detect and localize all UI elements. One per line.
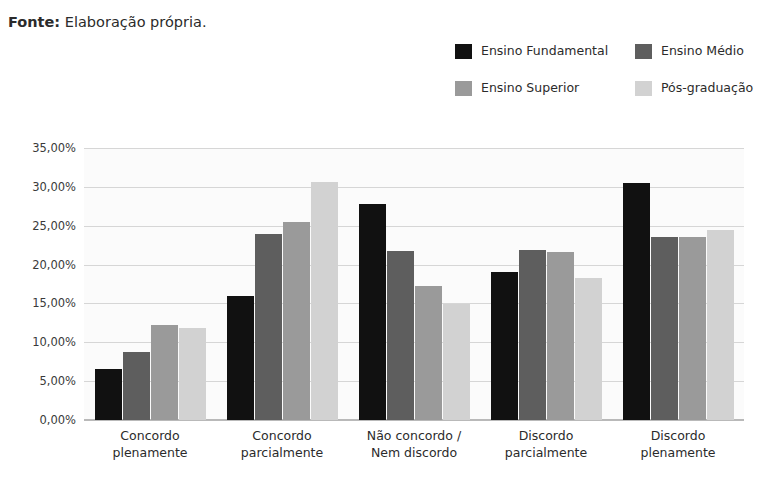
- bar: [651, 237, 678, 420]
- category-label-line: Discordo: [480, 428, 612, 445]
- bar: [387, 251, 414, 420]
- y-axis-tick-label: 25,00%: [32, 219, 76, 233]
- bar: [227, 296, 254, 420]
- legend-item-ensino-superior: Ensino Superior: [455, 81, 635, 96]
- category-label: Não concordo /Nem discordo: [348, 428, 480, 462]
- bar: [179, 328, 206, 420]
- category-label-line: plenamente: [84, 445, 216, 462]
- category-label-line: Discordo: [612, 428, 744, 445]
- bar: [311, 182, 338, 420]
- y-axis-tick-label: 30,00%: [32, 180, 76, 194]
- source-note: Fonte: Elaboração própria.: [8, 14, 207, 30]
- y-axis-tick-label: 20,00%: [32, 258, 76, 272]
- source-label: Fonte:: [8, 14, 60, 30]
- legend-swatch-pos-graduacao: [635, 81, 652, 96]
- bars: [480, 148, 612, 420]
- legend-label-ensino-superior: Ensino Superior: [481, 82, 579, 95]
- category-label: Discordoparcialmente: [480, 428, 612, 462]
- bar-group: [612, 148, 744, 420]
- chart-legend: Ensino Fundamental Ensino Médio Ensino S…: [455, 44, 755, 96]
- bar-group: [348, 148, 480, 420]
- bar: [679, 237, 706, 420]
- legend-swatch-ensino-superior: [455, 81, 472, 96]
- y-axis-tick-label: 35,00%: [32, 141, 76, 155]
- legend-item-ensino-fundamental: Ensino Fundamental: [455, 44, 635, 59]
- legend-swatch-ensino-medio: [635, 44, 652, 59]
- category-label-line: Não concordo /: [348, 428, 480, 445]
- category-label-line: Concordo: [216, 428, 348, 445]
- bar-group: [84, 148, 216, 420]
- bar: [255, 234, 282, 420]
- bar: [415, 286, 442, 420]
- gridline: 0,00%: [84, 420, 744, 421]
- legend-item-pos-graduacao: Pós-graduação: [635, 81, 755, 96]
- bar: [519, 250, 546, 420]
- category-axis-labels: ConcordoplenamenteConcordoparcialmenteNã…: [84, 428, 744, 462]
- category-label: Concordoplenamente: [84, 428, 216, 462]
- bar: [95, 369, 122, 420]
- y-axis-tick-label: 5,00%: [39, 374, 76, 388]
- bar-groups: [84, 148, 744, 420]
- category-label-line: parcialmente: [480, 445, 612, 462]
- plot-area: 0,00%5,00%10,00%15,00%20,00%25,00%30,00%…: [84, 148, 744, 420]
- bar: [359, 204, 386, 420]
- legend-swatch-ensino-fundamental: [455, 44, 472, 59]
- bars: [612, 148, 744, 420]
- category-label-line: plenamente: [612, 445, 744, 462]
- y-axis-tick-label: 15,00%: [32, 296, 76, 310]
- category-label-line: parcialmente: [216, 445, 348, 462]
- bar: [283, 222, 310, 420]
- bar: [151, 325, 178, 420]
- bars: [216, 148, 348, 420]
- bar: [491, 272, 518, 420]
- category-label: Concordoparcialmente: [216, 428, 348, 462]
- legend-label-ensino-medio: Ensino Médio: [661, 45, 744, 58]
- bar: [707, 230, 734, 420]
- category-label-line: Nem discordo: [348, 445, 480, 462]
- bar: [575, 278, 602, 420]
- category-label-line: Concordo: [84, 428, 216, 445]
- bar: [623, 183, 650, 420]
- y-axis-tick-label: 0,00%: [39, 413, 76, 427]
- category-label: Discordoplenamente: [612, 428, 744, 462]
- bars: [84, 148, 216, 420]
- y-axis-tick-label: 10,00%: [32, 335, 76, 349]
- bar: [123, 352, 150, 420]
- bar-group: [216, 148, 348, 420]
- bar-group: [480, 148, 612, 420]
- bar-chart: 0,00%5,00%10,00%15,00%20,00%25,00%30,00%…: [0, 132, 759, 479]
- bar: [443, 304, 470, 420]
- bars: [348, 148, 480, 420]
- bar: [547, 252, 574, 420]
- legend-label-pos-graduacao: Pós-graduação: [661, 82, 753, 95]
- source-text: Elaboração própria.: [60, 14, 206, 30]
- legend-label-ensino-fundamental: Ensino Fundamental: [481, 45, 608, 58]
- legend-item-ensino-medio: Ensino Médio: [635, 44, 755, 59]
